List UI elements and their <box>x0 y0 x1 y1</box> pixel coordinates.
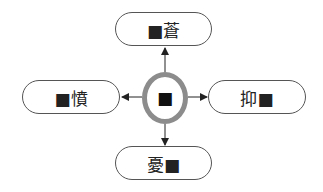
center-node: ■ <box>142 72 188 124</box>
node-top-label: ■蒼 <box>147 17 180 42</box>
node-left: ■憤 <box>22 80 120 114</box>
node-right: 抑■ <box>208 80 306 114</box>
center-node-label: ■ <box>157 88 173 108</box>
node-left-label: ■憤 <box>54 85 87 110</box>
node-bottom-label: 憂■ <box>147 151 180 176</box>
node-right-label: 抑■ <box>240 85 273 110</box>
node-bottom: 憂■ <box>115 146 212 180</box>
node-top: ■蒼 <box>115 12 212 46</box>
